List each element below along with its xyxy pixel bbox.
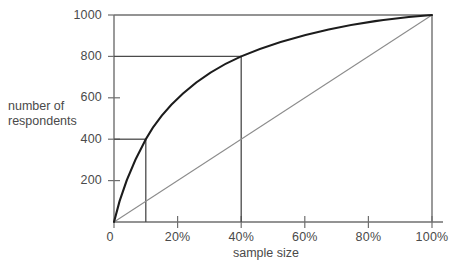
y-axis-title-line2: respondents bbox=[8, 114, 94, 129]
y-tick-label-400: 400 bbox=[40, 132, 102, 146]
y-axis-title-line1: number of bbox=[8, 99, 94, 114]
x-tick-label-40: 40% bbox=[213, 230, 269, 244]
x-tick-label-0: 0 bbox=[90, 230, 130, 244]
x-tick-label-100: 100% bbox=[401, 230, 463, 244]
y-tick-label-1000: 1000 bbox=[40, 8, 102, 22]
y-tick-label-800: 800 bbox=[40, 49, 102, 63]
y-tick-label-200: 200 bbox=[40, 173, 102, 187]
x-axis-title: sample size bbox=[233, 246, 299, 260]
figure-cumulative-response-curve: 1000 800 600 400 200 0 20% 40% 60% 80% 1… bbox=[0, 0, 471, 278]
series-linear-reference bbox=[114, 15, 432, 222]
x-tick-label-60: 60% bbox=[277, 230, 333, 244]
y-axis-title: number of respondents bbox=[8, 99, 94, 129]
x-tick-label-80: 80% bbox=[340, 230, 396, 244]
x-tick-label-20: 20% bbox=[150, 230, 206, 244]
